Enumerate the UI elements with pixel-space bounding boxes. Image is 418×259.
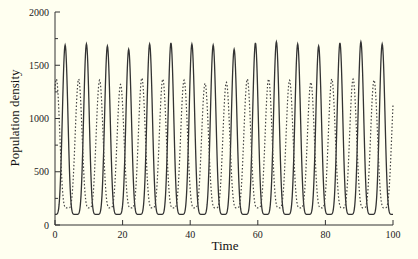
y-tick-label: 0 — [44, 220, 49, 231]
y-tick-label: 500 — [34, 166, 49, 177]
x-tick-label: 0 — [53, 229, 58, 240]
y-tick-label: 2000 — [29, 7, 49, 18]
x-tick-label: 60 — [253, 229, 263, 240]
x-tick-label: 100 — [386, 229, 401, 240]
plot-area — [55, 42, 393, 215]
y-axis-title: Population density — [7, 69, 22, 167]
y-tick-label: 1500 — [29, 60, 49, 71]
x-tick-label: 80 — [320, 229, 330, 240]
x-tick-label: 20 — [118, 229, 128, 240]
population-chart: 0500100015002000 020406080100 Time Popul… — [0, 0, 418, 259]
x-tick-label: 40 — [185, 229, 195, 240]
x-axis-ticks: 020406080100 — [53, 220, 401, 240]
x-axis-title: Time — [212, 238, 239, 253]
y-tick-label: 1000 — [29, 113, 49, 124]
